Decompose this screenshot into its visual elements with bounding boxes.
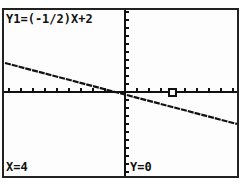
- equation-label: Y1=(-1/2)X+2: [6, 13, 93, 25]
- trace-x-value: X=4: [6, 161, 28, 173]
- trace-y-value: Y=0: [130, 161, 152, 173]
- graph-plot: [4, 10, 237, 176]
- function-line: [5, 63, 237, 124]
- trace-cursor[interactable]: [169, 89, 176, 96]
- calculator-graph-screen: Y1=(-1/2)X+2 X=4 Y=0: [2, 8, 239, 178]
